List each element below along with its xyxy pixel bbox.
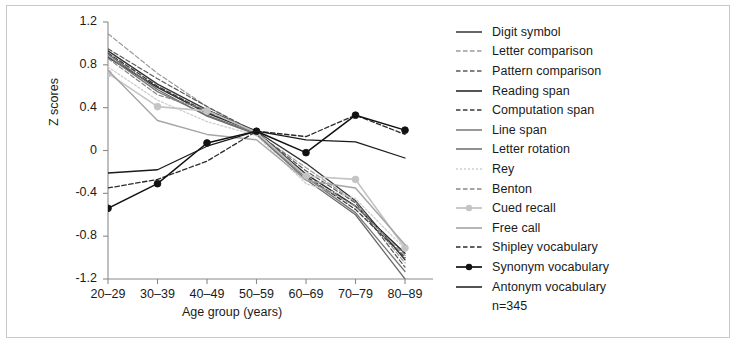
sample-size-note: n=345 — [492, 299, 527, 313]
series-marker — [352, 112, 359, 119]
legend-item-shipley-vocabulary[interactable]: Shipley vocabulary — [455, 238, 695, 258]
y-tick-label: -0.4 — [63, 185, 97, 199]
y-tick-label: 1.2 — [63, 14, 97, 28]
chart-legend: Digit symbolLetter comparisonPattern com… — [455, 22, 695, 296]
series-line-letter-comparison — [108, 34, 405, 263]
legend-item-label: Synonym vocabulary — [492, 260, 609, 274]
legend-line-sample-icon — [455, 163, 483, 175]
x-tick-label: 80–89 — [375, 287, 435, 301]
legend-line-sample-icon — [455, 26, 483, 38]
legend-item-benton[interactable]: Benton — [455, 179, 695, 199]
legend-line-sample-icon — [455, 222, 483, 234]
series-marker — [105, 205, 112, 212]
legend-line-sample-icon — [455, 85, 483, 97]
legend-item-label: Letter rotation — [492, 142, 570, 156]
y-tick-label: 0.4 — [63, 100, 97, 114]
legend-item-label: Antonym vocabulary — [492, 280, 606, 294]
legend-item-label: Pattern comparison — [492, 64, 601, 78]
legend-line-sample-icon — [455, 183, 483, 195]
series-line-antonym-vocabulary — [108, 131, 405, 173]
legend-item-label: Reading span — [492, 84, 570, 98]
legend-item-label: Computation span — [492, 103, 594, 117]
y-tick-label: -0.8 — [63, 228, 97, 242]
legend-line-sample-icon — [455, 241, 483, 253]
legend-item-label: Cued recall — [492, 201, 556, 215]
legend-line-sample-icon — [455, 143, 483, 155]
legend-item-pattern-comparison[interactable]: Pattern comparison — [455, 61, 695, 81]
legend-item-antonym-vocabulary[interactable]: Antonym vocabulary — [455, 277, 695, 297]
series-line-reading-span — [108, 57, 405, 253]
legend-line-sample-icon — [455, 281, 483, 293]
y-tick-label: 0 — [63, 143, 97, 157]
legend-item-rey[interactable]: Rey — [455, 159, 695, 179]
legend-item-synonym-vocabulary[interactable]: Synonym vocabulary — [455, 257, 695, 277]
legend-item-computation-span[interactable]: Computation span — [455, 100, 695, 120]
legend-item-digit-symbol[interactable]: Digit symbol — [455, 22, 695, 42]
chart-plot-area: Z scores Age group (years) 1.20.80.40-0.… — [0, 0, 440, 350]
legend-item-label: Benton — [492, 182, 532, 196]
legend-item-label: Line span — [492, 123, 547, 137]
legend-line-sample-icon — [455, 202, 483, 214]
legend-item-label: Shipley vocabulary — [492, 240, 598, 254]
legend-line-sample-icon — [455, 261, 483, 273]
y-axis-title: Z scores — [47, 78, 61, 126]
series-marker — [204, 107, 211, 114]
legend-line-sample-icon — [455, 124, 483, 136]
series-marker — [154, 103, 161, 110]
legend-item-free-call[interactable]: Free call — [455, 218, 695, 238]
legend-line-sample-icon — [455, 65, 483, 77]
series-marker — [402, 127, 409, 134]
series-marker — [303, 149, 310, 156]
y-tick-label: 0.8 — [63, 57, 97, 71]
legend-item-reading-span[interactable]: Reading span — [455, 81, 695, 101]
series-line-line-span — [108, 56, 405, 271]
x-axis-title: Age group (years) — [182, 305, 282, 319]
series-marker — [402, 245, 409, 252]
legend-item-cued-recall[interactable]: Cued recall — [455, 198, 695, 218]
legend-item-label: Free call — [492, 221, 540, 235]
series-line-shipley-vocabulary — [108, 115, 405, 188]
y-tick-label: -1.2 — [63, 271, 97, 285]
figure-container: Z scores Age group (years) 1.20.80.40-0.… — [0, 0, 739, 350]
legend-item-letter-comparison[interactable]: Letter comparison — [455, 42, 695, 62]
legend-item-label: Letter comparison — [492, 44, 593, 58]
legend-item-label: Digit symbol — [492, 25, 561, 39]
series-marker — [154, 180, 161, 187]
legend-item-line-span[interactable]: Line span — [455, 120, 695, 140]
legend-item-label: Rey — [492, 162, 514, 176]
legend-line-sample-icon — [455, 104, 483, 116]
legend-line-sample-icon — [455, 45, 483, 57]
series-marker — [352, 176, 359, 183]
legend-item-letter-rotation[interactable]: Letter rotation — [455, 140, 695, 160]
